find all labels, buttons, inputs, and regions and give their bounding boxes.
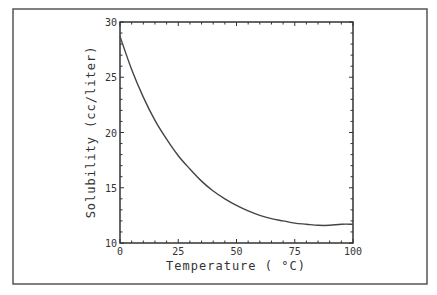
y-axis-label: Solubility (cc/liter)	[84, 46, 98, 219]
x-tick-label: 100	[344, 246, 362, 257]
plot-area: 02550751001015202530	[105, 17, 362, 257]
x-tick-label: 75	[289, 246, 301, 257]
x-tick-label: 25	[172, 246, 184, 257]
y-tick-label: 10	[105, 238, 117, 249]
y-tick-label: 20	[105, 128, 117, 139]
solubility-curve	[120, 36, 353, 225]
x-axis-label: Temperature ( °C)	[166, 259, 306, 273]
y-tick-label: 30	[105, 17, 117, 28]
plot-frame	[120, 22, 353, 243]
y-tick-label: 15	[105, 183, 117, 194]
x-tick-label: 0	[117, 246, 123, 257]
x-tick-label: 50	[230, 246, 242, 257]
chart: 02550751001015202530 Temperature ( °C) S…	[0, 0, 437, 295]
y-tick-label: 25	[105, 72, 117, 83]
